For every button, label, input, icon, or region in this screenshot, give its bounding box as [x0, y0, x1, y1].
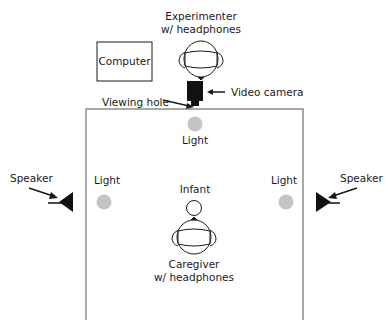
caregiver-label-line1: Caregiver	[169, 258, 221, 270]
light-left-label: Light	[94, 174, 120, 186]
light-top-label: Light	[182, 134, 208, 146]
caregiver-label-line2: w/ headphones	[154, 271, 234, 283]
experimenter-label-line1: Experimenter	[165, 10, 237, 22]
computer-label: Computer	[98, 55, 151, 67]
video-camera-icon	[187, 81, 203, 106]
light-right-label: Light	[271, 174, 297, 186]
video-camera-arrow	[207, 89, 225, 95]
experimenter-label-line2: w/ headphones	[161, 23, 241, 35]
speaker-left-arrow	[29, 188, 58, 199]
speaker-left-label: Speaker	[10, 172, 53, 184]
viewing-hole-label: Viewing hole	[102, 96, 169, 108]
setup-diagram: Experimenter w/ headphones Computer Vide…	[0, 0, 389, 332]
light-left-icon	[97, 195, 112, 210]
infant-icon	[187, 201, 202, 216]
infant-label: Infant	[180, 183, 211, 195]
experimenter-icon	[179, 41, 223, 80]
speaker-right-label: Speaker	[340, 172, 383, 184]
video-camera-label: Video camera	[231, 86, 303, 98]
light-right-icon	[279, 195, 294, 210]
speaker-right-arrow	[328, 188, 357, 199]
caregiver-icon	[172, 217, 216, 254]
light-top-icon	[188, 117, 203, 132]
